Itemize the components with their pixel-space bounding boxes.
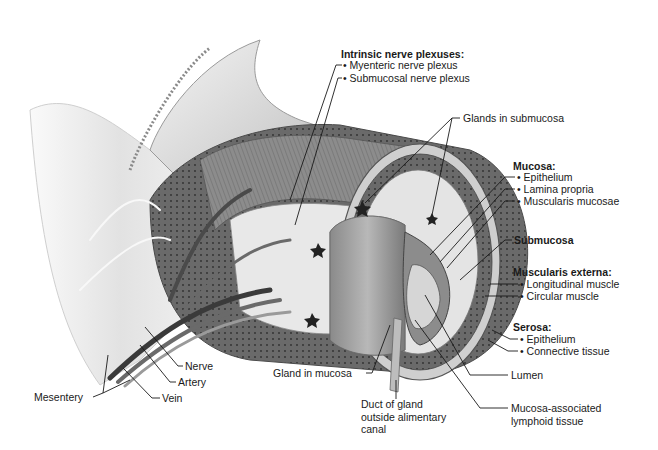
label-submucosa: Submucosa: [514, 234, 574, 247]
label-myenteric-nerve-plexus: • Myenteric nerve plexus: [343, 59, 458, 72]
label-submucosal-nerve-plexus: • Submucosal nerve plexus: [343, 72, 470, 85]
label-artery: Artery: [178, 376, 206, 389]
label-serosa-heading: Serosa:: [513, 321, 552, 334]
label-longitudinal-muscle: • Longitudinal muscle: [520, 278, 619, 291]
alimentary-canal-illustration: [0, 0, 658, 450]
label-vein: Vein: [162, 392, 182, 405]
label-lumen: Lumen: [511, 369, 543, 382]
label-glands-in-submucosa: Glands in submucosa: [463, 112, 564, 125]
label-serosa-epithelium: • Epithelium: [520, 333, 576, 346]
label-mesentery: Mesentery: [34, 391, 83, 404]
label-mucosa-epithelium: • Epithelium: [517, 171, 573, 184]
label-muscularis-externa-heading: Muscularis externa:: [513, 266, 612, 279]
label-gland-in-mucosa: Gland in mucosa: [273, 367, 352, 380]
label-duct-of-gland: Duct of gland outside alimentary canal: [361, 398, 446, 436]
label-lamina-propria: • Lamina propria: [517, 183, 594, 196]
label-mucosa-associated-lymphoid-tissue: Mucosa-associated lymphoid tissue: [511, 402, 601, 427]
label-circular-muscle: • Circular muscle: [520, 290, 599, 303]
label-connective-tissue: • Connective tissue: [520, 345, 609, 358]
label-nerve: Nerve: [185, 360, 213, 373]
label-muscularis-mucosae: • Muscularis mucosae: [517, 195, 619, 208]
